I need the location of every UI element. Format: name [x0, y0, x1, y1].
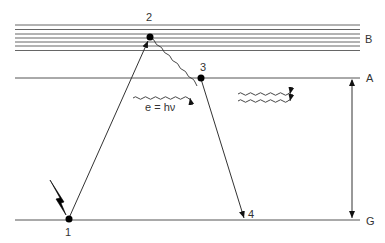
- relaxation-wavy-line: [151, 38, 197, 86]
- emitted-photon-arrow-1: [238, 93, 290, 96]
- point-1: [66, 216, 73, 223]
- point-label-3: 3: [200, 61, 206, 73]
- level-label-a: A: [366, 72, 374, 84]
- energy-level-diagram: B A G e = hν 1 2 3 4: [0, 0, 385, 243]
- point-label-4: 4: [248, 208, 254, 220]
- band-b-lines: [15, 25, 360, 51]
- emitted-photon-arrow-2: [238, 100, 290, 103]
- excitation-arrow: [69, 41, 148, 218]
- emission-arrow: [201, 79, 244, 218]
- point-2: [147, 34, 154, 41]
- photon-wavy-arrow: [133, 97, 190, 100]
- point-label-1: 1: [65, 226, 71, 238]
- lightning-bolt-icon: [50, 180, 66, 215]
- level-label-g: G: [366, 215, 375, 227]
- level-label-b: B: [365, 33, 372, 45]
- point-label-2: 2: [146, 11, 152, 23]
- point-3: [198, 75, 205, 82]
- photon-energy-equation: e = hν: [145, 101, 176, 113]
